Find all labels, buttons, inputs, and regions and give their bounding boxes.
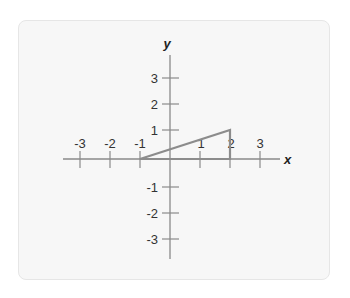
x-tick-label: 3 bbox=[256, 136, 263, 151]
y-tick-label: 1 bbox=[151, 123, 158, 138]
x-tick-label: -1 bbox=[134, 136, 146, 151]
y-tick-label: -3 bbox=[146, 232, 158, 247]
y-tick-label: -2 bbox=[146, 206, 158, 221]
y-axis-label: y bbox=[162, 36, 171, 51]
x-axis-label: x bbox=[283, 152, 292, 167]
y-tick-label: -1 bbox=[146, 180, 158, 195]
x-tick-label: -3 bbox=[74, 136, 86, 151]
y-tick-label: 2 bbox=[151, 97, 158, 112]
x-tick-label: -2 bbox=[104, 136, 116, 151]
y-tick-label: 3 bbox=[151, 71, 158, 86]
coordinate-plane: -3 -2 -1 1 2 3 3 2 1 -1 -2 -3 x y bbox=[0, 0, 350, 298]
